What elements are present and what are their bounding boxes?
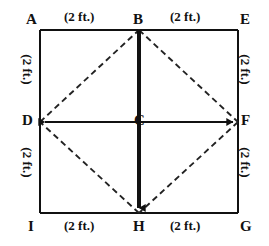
dimension-label-bottom-right: (2 ft.): [170, 219, 200, 232]
vertex-label-h: H: [133, 219, 145, 234]
vertex-label-b: B: [133, 12, 143, 27]
dimension-label-top-right: (2 ft.): [170, 10, 200, 23]
dimension-label-left-lower: (2 ft.): [21, 139, 34, 187]
dimension-label-right-lower: (2 ft.): [239, 139, 252, 187]
vertex-label-d: D: [22, 113, 33, 128]
diagonal-bf-dashed: [139, 30, 238, 122]
vertex-label-f: F: [241, 113, 250, 128]
vertex-label-e: E: [240, 12, 250, 27]
diagonal-hd-dashed: [40, 122, 139, 213]
vertex-label-a: A: [26, 12, 37, 27]
dimension-label-top-left: (2 ft.): [64, 10, 94, 23]
vertex-label-g: G: [240, 219, 252, 234]
diagonal-fh-dashed: [139, 122, 238, 213]
diagram-canvas: A B E D C F I H G (2 ft.) (2 ft.) (2 ft.…: [0, 0, 269, 246]
vertex-label-i: I: [28, 219, 34, 234]
diagonal-db-dashed: [40, 30, 139, 122]
dimension-label-left-upper: (2 ft.): [21, 46, 34, 94]
vertex-label-c: C: [134, 113, 145, 128]
dimension-label-right-upper: (2 ft.): [239, 46, 252, 94]
dimension-label-bottom-left: (2 ft.): [64, 219, 94, 232]
